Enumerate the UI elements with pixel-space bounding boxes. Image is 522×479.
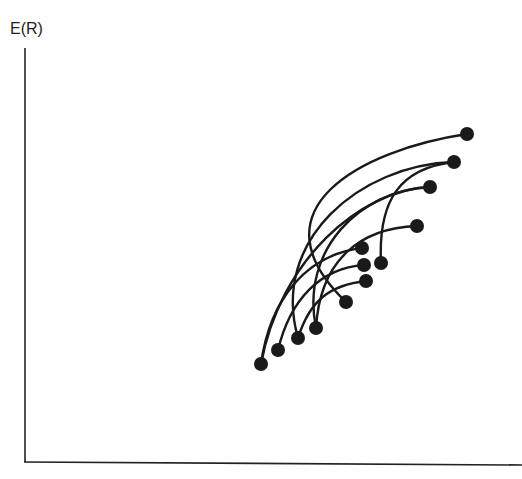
data-point xyxy=(423,180,437,194)
data-point xyxy=(359,274,373,288)
data-point xyxy=(355,241,369,255)
data-point xyxy=(374,256,388,270)
data-point xyxy=(309,321,323,335)
data-point xyxy=(339,295,353,309)
frontier-curve xyxy=(309,134,467,302)
frontier-curve xyxy=(278,265,364,350)
data-point xyxy=(447,155,461,169)
data-point xyxy=(271,343,285,357)
axes xyxy=(24,48,522,465)
data-point xyxy=(357,258,371,272)
data-point xyxy=(410,219,424,233)
frontier-curve xyxy=(381,162,454,263)
data-point xyxy=(291,331,305,345)
frontier-curve xyxy=(261,187,430,364)
data-point xyxy=(254,357,268,371)
data-point xyxy=(460,127,474,141)
chart-canvas xyxy=(0,0,522,479)
x-axis xyxy=(24,462,522,465)
